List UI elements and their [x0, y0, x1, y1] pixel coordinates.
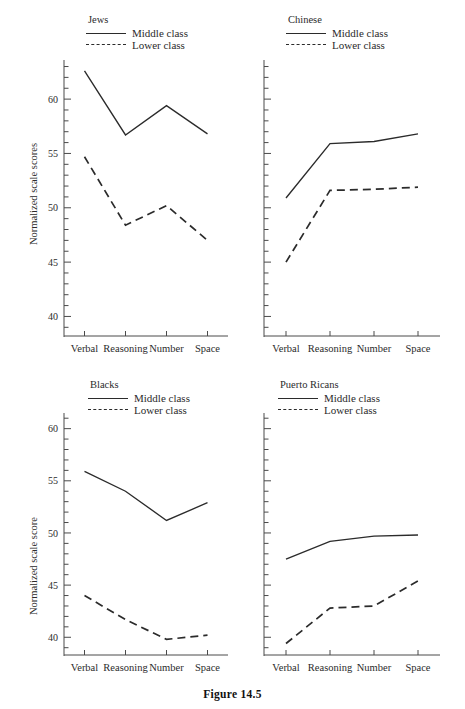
x-tick-label: Number — [149, 662, 184, 673]
x-tick-label: Space — [195, 343, 220, 354]
x-tick-label: Reasoning — [103, 662, 148, 673]
legend-label-lower-class: Lower class — [332, 39, 385, 51]
x-tick-label: Number — [357, 343, 392, 354]
y-tick-label: 40 — [48, 632, 58, 643]
legend-row-lower-class: Lower class — [278, 404, 380, 416]
series-line-lower-class — [286, 581, 418, 644]
y-tick-label: 60 — [48, 423, 58, 434]
dashed-line-swatch — [286, 41, 326, 49]
y-axis-label-blacks: Normalized scale score — [28, 517, 39, 615]
y-tick-label: 55 — [48, 475, 58, 486]
y-tick-label: 50 — [48, 202, 58, 213]
legend-label-lower-class: Lower class — [134, 404, 187, 416]
legend-label-middle-class: Middle class — [134, 392, 190, 404]
legend-row-middle-class: Middle class — [286, 27, 388, 39]
legend-row-lower-class: Lower class — [286, 39, 388, 51]
legend-label-middle-class: Middle class — [132, 27, 188, 39]
figure-14-5: Jews Middle class Lower class Normalized… — [0, 0, 465, 709]
solid-line-swatch — [278, 394, 318, 402]
series-line-lower-class — [286, 187, 418, 262]
y-tick-label: 55 — [48, 148, 58, 159]
chart-panel-chinese: Chinese Middle class Lower class VerbalR… — [230, 0, 465, 355]
y-tick-label: 45 — [48, 257, 58, 268]
y-tick-label: 40 — [48, 311, 58, 322]
solid-line-swatch — [86, 29, 126, 37]
x-tick-label: Number — [149, 343, 184, 354]
y-tick-label: 60 — [48, 94, 58, 105]
solid-line-swatch — [286, 29, 326, 37]
series-line-middle-class — [286, 134, 418, 198]
legend-label-middle-class: Middle class — [324, 392, 380, 404]
legend-label-middle-class: Middle class — [332, 27, 388, 39]
legend-blacks: Blacks Middle class Lower class — [88, 379, 190, 416]
x-tick-label: Verbal — [71, 343, 98, 354]
chart-panel-jews: Jews Middle class Lower class Normalized… — [0, 0, 235, 355]
dashed-line-swatch — [86, 41, 126, 49]
figure-caption: Figure 14.5 — [0, 688, 465, 700]
chart-panel-puerto-ricans: Puerto Ricans Middle class Lower class V… — [230, 355, 465, 695]
x-tick-label: Number — [357, 662, 392, 673]
legend-chinese: Chinese Middle class Lower class — [286, 14, 388, 51]
x-tick-label: Verbal — [272, 662, 299, 673]
chart-panel-blacks: Blacks Middle class Lower class Normaliz… — [0, 355, 235, 695]
series-line-middle-class — [85, 71, 208, 135]
dashed-line-swatch — [278, 406, 318, 414]
y-tick-label: 45 — [48, 580, 58, 591]
plot-area-chinese: VerbalReasoningNumberSpace — [230, 0, 465, 355]
x-tick-label: Space — [405, 662, 430, 673]
x-tick-label: Space — [405, 343, 430, 354]
legend-row-lower-class: Lower class — [88, 404, 190, 416]
legend-label-lower-class: Lower class — [132, 39, 185, 51]
series-line-lower-class — [85, 596, 208, 640]
legend-row-middle-class: Middle class — [86, 27, 188, 39]
legend-puerto-ricans: Puerto Ricans Middle class Lower class — [278, 379, 380, 416]
panel-title-blacks: Blacks — [88, 379, 190, 391]
x-tick-label: Reasoning — [308, 343, 353, 354]
panel-title-chinese: Chinese — [286, 14, 388, 26]
y-tick-label: 50 — [48, 528, 58, 539]
y-axis-label-jews: Normalized scale scores — [28, 143, 39, 245]
solid-line-swatch — [88, 394, 128, 402]
series-line-middle-class — [286, 535, 418, 559]
legend-label-lower-class: Lower class — [324, 404, 377, 416]
x-tick-label: Verbal — [71, 662, 98, 673]
dashed-line-swatch — [88, 406, 128, 414]
panel-title-jews: Jews — [86, 14, 188, 26]
legend-row-lower-class: Lower class — [86, 39, 188, 51]
x-tick-label: Reasoning — [103, 343, 148, 354]
series-line-middle-class — [85, 471, 208, 520]
series-line-lower-class — [85, 157, 208, 241]
legend-jews: Jews Middle class Lower class — [86, 14, 188, 51]
x-tick-label: Verbal — [272, 343, 299, 354]
x-tick-label: Reasoning — [308, 662, 353, 673]
legend-row-middle-class: Middle class — [88, 392, 190, 404]
x-tick-label: Space — [195, 662, 220, 673]
panel-title-puerto-ricans: Puerto Ricans — [278, 379, 380, 391]
legend-row-middle-class: Middle class — [278, 392, 380, 404]
